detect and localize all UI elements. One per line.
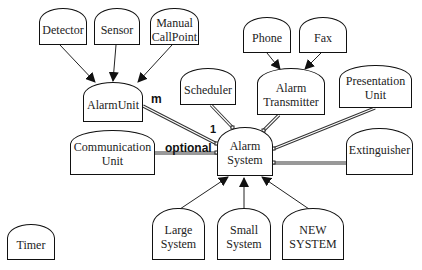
edge-fax-transmitter	[305, 53, 321, 69]
edge-large-alarmsystem	[180, 177, 228, 209]
node-new-system[interactable]: NEW SYSTEM	[282, 208, 344, 260]
node-large-system[interactable]: Large System	[152, 208, 205, 260]
node-presentation-unit[interactable]: Presentation Unit	[339, 65, 412, 108]
node-manual-callpoint[interactable]: Manual CallPoint	[150, 8, 199, 45]
node-alarm-system[interactable]: Alarm System	[217, 127, 273, 176]
node-detector[interactable]: Detector	[39, 8, 87, 45]
node-communication-unit[interactable]: Communication Unit	[70, 130, 155, 175]
node-sensor[interactable]: Sensor	[94, 8, 140, 45]
node-small-system[interactable]: Small System	[217, 208, 271, 260]
edge-callpoint-alarmunit	[138, 45, 172, 82]
optional-label: optional	[165, 141, 212, 155]
edge-phone-transmitter	[267, 53, 280, 69]
multiplicity-m-label: m	[151, 92, 162, 106]
node-alarm-unit[interactable]: AlarmUnit	[83, 82, 143, 122]
node-fax[interactable]: Fax	[299, 17, 347, 53]
node-phone[interactable]: Phone	[243, 17, 291, 53]
node-scheduler[interactable]: Scheduler	[180, 68, 236, 105]
node-extinguisher[interactable]: Extinguisher	[346, 128, 413, 175]
multiplicity-1-label: 1	[210, 123, 216, 135]
node-timer[interactable]: Timer	[7, 224, 55, 260]
node-alarm-transmitter[interactable]: Alarm Transmitter	[257, 68, 325, 115]
edge-sensor-alarmunit	[113, 45, 116, 81]
edge-detector-alarmunit	[60, 45, 95, 82]
edge-new-alarmsystem	[262, 177, 309, 209]
